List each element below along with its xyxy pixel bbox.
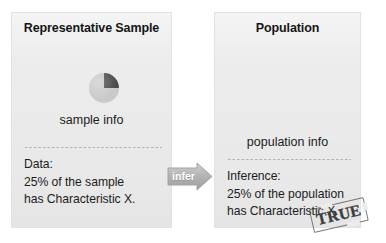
representative-sample-title: Representative Sample bbox=[12, 21, 171, 35]
infer-arrow-label: infer bbox=[167, 169, 200, 183]
population-info-label: population info bbox=[215, 135, 360, 150]
diagram-canvas: Representative Sample sample info Data: … bbox=[0, 0, 386, 243]
true-stamp-wear-right bbox=[362, 202, 368, 210]
sample-pie-shading bbox=[89, 73, 119, 103]
representative-sample-panel: Representative Sample sample info Data: … bbox=[11, 12, 172, 228]
representative-sample-panel-content: Representative Sample sample info Data: … bbox=[12, 13, 171, 227]
population-panel: Population population info Inference: 25… bbox=[214, 12, 361, 228]
population-dotted-divider bbox=[227, 158, 351, 161]
sample-info-label: sample info bbox=[12, 113, 171, 128]
population-title: Population bbox=[215, 21, 360, 35]
sample-dotted-divider bbox=[24, 146, 162, 149]
population-panel-content: Population population info Inference: 25… bbox=[215, 13, 360, 227]
infer-arrow: infer bbox=[167, 162, 213, 191]
sample-pie-chart bbox=[89, 73, 119, 103]
sample-data-text: Data: 25% of the sample has Characterist… bbox=[24, 156, 169, 209]
